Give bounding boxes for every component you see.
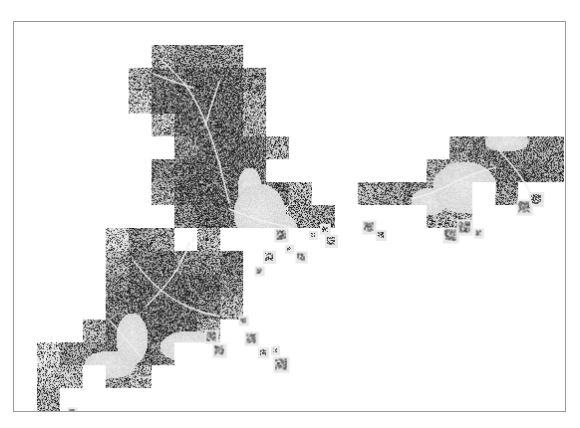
map-raster-mosaic [14,22,565,411]
map-frame-border [13,21,566,412]
map-figure [0,0,580,428]
